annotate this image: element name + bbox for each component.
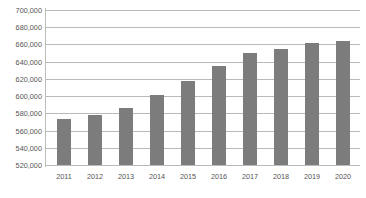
x-tick-label: 2015	[171, 172, 205, 181]
bar-2012	[88, 115, 102, 165]
x-tick-label: 2016	[202, 172, 236, 181]
y-tick-label: 580,000	[0, 109, 42, 118]
x-tick-label: 2017	[233, 172, 267, 181]
bar-series	[46, 10, 360, 165]
bar-2015	[181, 81, 195, 165]
bar-2017	[243, 53, 257, 165]
bar-2016	[212, 66, 226, 165]
y-tick-label: 560,000	[0, 126, 42, 135]
bar-2020	[336, 41, 350, 165]
y-tick-label: 640,000	[0, 57, 42, 66]
bar-2014	[150, 95, 164, 165]
bar-2018	[274, 49, 288, 165]
x-axis-tick-labels: 2011 2012 2013 2014 2015 2016 2017 2018 …	[46, 168, 360, 188]
y-tick-label: 680,000	[0, 23, 42, 32]
bar-chart: 700,000 680,000 660,000 640,000 620,000 …	[0, 0, 366, 198]
bar-2019	[305, 43, 319, 165]
x-tick-label: 2014	[140, 172, 174, 181]
bar-2011	[57, 119, 71, 166]
y-tick-label: 620,000	[0, 74, 42, 83]
x-tick-label: 2012	[78, 172, 112, 181]
y-tick-label: 540,000	[0, 143, 42, 152]
x-tick-label: 2011	[47, 172, 81, 181]
bar-2013	[119, 108, 133, 165]
x-tick-label: 2018	[264, 172, 298, 181]
x-tick-label: 2020	[326, 172, 360, 181]
y-tick-label: 700,000	[0, 6, 42, 15]
y-tick-label: 660,000	[0, 40, 42, 49]
gridline	[46, 165, 360, 166]
x-tick-label: 2019	[295, 172, 329, 181]
x-tick-label: 2013	[109, 172, 143, 181]
y-axis-tick-labels: 700,000 680,000 660,000 640,000 620,000 …	[0, 0, 42, 198]
y-tick-label: 520,000	[0, 161, 42, 170]
y-tick-label: 600,000	[0, 92, 42, 101]
